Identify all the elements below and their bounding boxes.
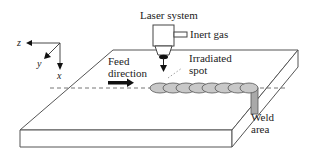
label-laser-system: Laser system xyxy=(140,10,198,21)
laser-body xyxy=(153,25,174,46)
x-axis-arrowhead-icon xyxy=(57,63,63,70)
label-inert-gas: Inert gas xyxy=(190,29,228,40)
label-feed-line1: Feed xyxy=(108,56,129,67)
inert-gas-pipe xyxy=(174,32,187,37)
label-feed-line2: direction xyxy=(108,68,147,79)
label-irradiated-line1: Irradiated xyxy=(189,53,232,64)
label-irradiated-line2: spot xyxy=(189,65,207,76)
axis-label-z: z xyxy=(17,37,21,48)
axis-label-x: x xyxy=(57,70,61,81)
laser-nozzle xyxy=(155,46,172,55)
slab-front-face xyxy=(20,130,232,147)
laser-welding-diagram xyxy=(0,0,314,161)
weld-beads xyxy=(150,83,258,93)
label-weld-line2: area xyxy=(251,124,269,135)
axis-label-y: y xyxy=(37,58,41,69)
z-axis-arrowhead-icon xyxy=(26,40,32,46)
label-weld-line1: Weld xyxy=(251,112,274,123)
coordinate-axes xyxy=(26,40,63,70)
